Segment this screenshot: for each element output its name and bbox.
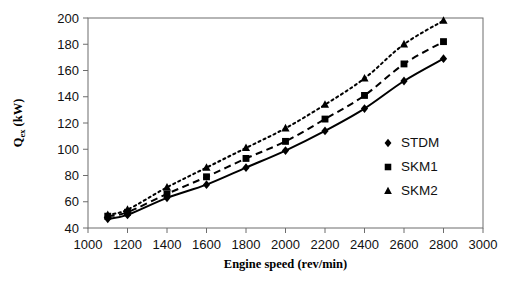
x-axis-title-text: Engine speed (rev/min)	[224, 257, 347, 271]
x-tick-label: 1600	[192, 237, 221, 252]
y-axis-title: Qex (kW)	[11, 99, 27, 148]
x-axis-tick-labels: 1000120014001600180020002200240026002800…	[74, 237, 498, 252]
marker-square	[282, 138, 289, 145]
x-tick-label: 1800	[232, 237, 261, 252]
y-axis-title-text: Qex (kW)	[11, 99, 27, 148]
x-tick-label: 2800	[429, 237, 458, 252]
y-tick-label: 60	[65, 194, 79, 209]
y-tick-label: 200	[57, 11, 79, 26]
marker-square	[322, 116, 329, 123]
x-tick-label: 1200	[113, 237, 142, 252]
y-tick-label: 100	[57, 142, 79, 157]
x-tick-label: 2600	[390, 237, 419, 252]
legend-label: STDM	[401, 135, 439, 150]
y-tick-label: 40	[65, 221, 79, 236]
x-tick-label: 3000	[469, 237, 498, 252]
marker-square	[385, 164, 392, 171]
x-tick-label: 1000	[74, 237, 103, 252]
x-axis-title: Engine speed (rev/min)	[224, 257, 347, 271]
x-tick-label: 2400	[350, 237, 379, 252]
x-tick-label: 2200	[311, 237, 340, 252]
y-axis-title-group: Qex (kW)	[11, 99, 27, 148]
chart-figure: 1000120014001600180020002200240026002800…	[0, 0, 510, 286]
marker-square	[401, 61, 408, 68]
marker-square	[361, 92, 368, 99]
y-tick-label: 120	[57, 116, 79, 131]
legend-label: SKM1	[401, 159, 438, 174]
legend-label: SKM2	[401, 183, 438, 198]
y-tick-label: 160	[57, 63, 79, 78]
line-chart: 1000120014001600180020002200240026002800…	[0, 0, 510, 286]
marker-square	[203, 173, 210, 180]
y-tick-label: 80	[65, 168, 79, 183]
marker-square	[164, 190, 171, 197]
x-tick-label: 1400	[153, 237, 182, 252]
marker-square	[440, 38, 447, 45]
marker-square	[243, 155, 250, 162]
y-tick-label: 180	[57, 37, 79, 52]
x-tick-label: 2000	[271, 237, 300, 252]
y-tick-label: 140	[57, 89, 79, 104]
